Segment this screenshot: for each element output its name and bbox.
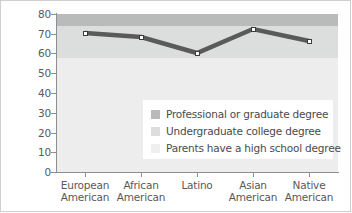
data-point-european-american [83,31,88,36]
legend-swatch-icon-high-school [151,144,160,153]
legend-item-parents-high-school-degree: Parents have a high school degree [151,140,325,157]
chart-root: 80 70 60 50 40 30 20 10 0 Professional o… [0,0,352,213]
legend-swatch-icon-professional [151,110,160,119]
data-point-asian-american [251,27,256,32]
legend: Professional or graduate degree Undergra… [143,100,333,159]
x-label-line2-african: American [103,191,179,203]
legend-item-professional-or-graduate-degree: Professional or graduate degree [151,106,325,123]
x-tick-label-native-american: Native American [271,179,347,203]
legend-label-professional: Professional or graduate degree [166,109,328,120]
legend-label-undergraduate: Undergraduate college degree [166,126,321,137]
data-point-african-american [139,35,144,40]
data-point-latino [195,51,200,56]
x-label-line2-native: American [271,191,347,203]
data-point-native-american [307,39,312,44]
x-label-line1-native: Native [271,179,347,191]
legend-swatch-icon-undergraduate [151,127,160,136]
legend-label-high-school: Parents have a high school degree [166,143,341,154]
legend-item-undergraduate-college-degree: Undergraduate college degree [151,123,325,140]
